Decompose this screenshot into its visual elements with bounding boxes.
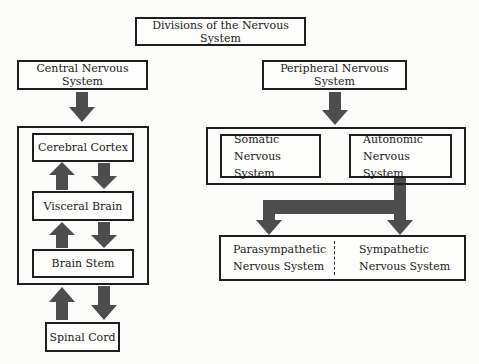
arrow-down-icon [69, 92, 95, 122]
autonomic-box: Autonomic Nervous System [349, 134, 452, 178]
sympathetic-line2: Nervous System [359, 258, 450, 275]
visceral-brain-label: Visceral Brain [44, 200, 123, 213]
central-label: Central Nervous System [19, 62, 146, 88]
sympathetic-section: Sympathetic Nervous System [337, 237, 479, 279]
dashed-divider [334, 241, 335, 275]
diagram-title: Divisions of the Nervous System [137, 19, 304, 45]
visceral-brain-box: Visceral Brain [32, 191, 134, 221]
brain-stem-box: Brain Stem [32, 249, 134, 278]
autonomic-line2: Nervous System [363, 148, 450, 182]
sympathetic-line1: Sympathetic [359, 241, 450, 258]
autonomic-line1: Autonomic [363, 131, 450, 148]
parasympathetic-line2: Nervous System [233, 258, 326, 275]
somatic-line2: Nervous System [234, 148, 319, 182]
parasympathetic-section: Parasympathetic Nervous System [221, 237, 345, 279]
cerebral-cortex-label: Cerebral Cortex [38, 141, 128, 154]
arrow-up-icon [49, 287, 75, 320]
peripheral-nervous-system-box: Peripheral Nervous System [262, 60, 407, 90]
autonomic-divisions-box: Parasympathetic Nervous System Sympathet… [219, 235, 466, 281]
arrow-down-icon [91, 286, 117, 320]
parasympathetic-line1: Parasympathetic [233, 241, 326, 258]
spinal-cord-label: Spinal Cord [49, 331, 115, 344]
spinal-cord-box: Spinal Cord [45, 322, 120, 352]
cerebral-cortex-box: Cerebral Cortex [32, 133, 134, 162]
somatic-box: Somatic Nervous System [220, 134, 321, 178]
arrow-down-icon [322, 92, 348, 125]
brain-stem-label: Brain Stem [52, 257, 115, 270]
central-nervous-system-box: Central Nervous System [17, 60, 148, 90]
somatic-line1: Somatic [234, 131, 319, 148]
title-box: Divisions of the Nervous System [135, 17, 306, 46]
peripheral-label: Peripheral Nervous System [264, 62, 405, 88]
branch-arrow-icon [256, 178, 413, 235]
